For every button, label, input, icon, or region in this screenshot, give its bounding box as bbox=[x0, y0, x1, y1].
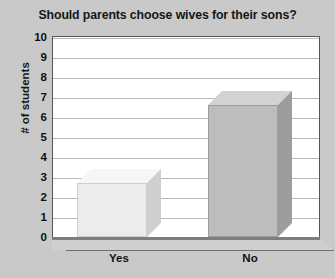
gridline bbox=[53, 58, 319, 59]
y-axis-tick-label: 5 bbox=[17, 131, 47, 143]
y-axis-tick-label: 0 bbox=[17, 231, 47, 243]
y-axis-tick-label: 9 bbox=[17, 51, 47, 63]
bar-front-face bbox=[77, 183, 147, 237]
y-axis-tick-label: 1 bbox=[17, 211, 47, 223]
bar-yes bbox=[77, 169, 147, 237]
chart-floor-edge bbox=[66, 250, 334, 251]
y-axis-tick-label: 2 bbox=[17, 191, 47, 203]
x-axis-tick-label: Yes bbox=[74, 252, 164, 264]
y-axis-tick-label: 7 bbox=[17, 91, 47, 103]
y-axis-tick-label: 10 bbox=[17, 31, 47, 43]
gridline bbox=[53, 38, 319, 39]
chart-floor-face bbox=[52, 237, 320, 240]
bar-front-face bbox=[208, 105, 278, 237]
gridline bbox=[53, 78, 319, 79]
chart-title: Should parents choose wives for their so… bbox=[0, 8, 335, 22]
bar-top-face bbox=[208, 91, 292, 105]
x-axis-tick-label: No bbox=[205, 252, 295, 264]
chart-floor-depth bbox=[52, 239, 334, 250]
bar-chart: Should parents choose wives for their so… bbox=[0, 0, 335, 278]
bar-no bbox=[208, 91, 278, 237]
y-axis-tick-label: 3 bbox=[17, 171, 47, 183]
y-axis-tick-label: 4 bbox=[17, 151, 47, 163]
bar-top-face bbox=[77, 169, 161, 183]
chart-floor bbox=[52, 237, 334, 251]
y-axis-tick-label: 8 bbox=[17, 71, 47, 83]
bar-side-face bbox=[278, 91, 292, 237]
y-axis-tick-label: 6 bbox=[17, 111, 47, 123]
